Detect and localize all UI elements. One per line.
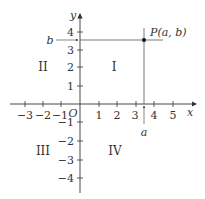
- y-axis-label: y: [69, 9, 77, 22]
- x-tick-label: 5: [170, 109, 177, 122]
- point-p-marker: [142, 38, 146, 42]
- y-tick-label: 2: [67, 61, 74, 74]
- x-tick-label: 4: [151, 109, 158, 122]
- point-guide-lines: [80, 28, 163, 104]
- point-p-label: P(a, b): [149, 26, 187, 39]
- quadrant-label-II: II: [38, 60, 48, 74]
- origin-label: O: [68, 107, 77, 120]
- quadrant-label-IV: IV: [108, 144, 122, 158]
- y-tick-label: 4: [67, 26, 74, 39]
- coordinate-plane-diagram: −3 −2 −1 1 2 3 4 5 x 4 3: [0, 0, 205, 199]
- a-label: a: [141, 126, 148, 139]
- y-tick-label: 3: [67, 44, 74, 57]
- y-tick-label: 1: [67, 80, 74, 93]
- y-axis: 4 3 2 1 −1 −2 −3 −4 y: [58, 9, 83, 193]
- y-tick-label: −4: [58, 172, 74, 185]
- y-tick-label: −2: [58, 135, 74, 148]
- x-tick-label: −3: [17, 109, 33, 122]
- x-tick-label: 3: [132, 109, 139, 122]
- x-tick-label: −2: [35, 109, 51, 122]
- a-pointer: a: [141, 106, 148, 139]
- x-axis: −3 −2 −1 1 2 3 4 5 x: [10, 101, 196, 122]
- x-tick-label: 2: [114, 109, 121, 122]
- b-label: b: [46, 34, 53, 47]
- quadrant-label-I: I: [112, 60, 117, 74]
- x-axis-label: x: [187, 106, 194, 119]
- x-tick-label: 1: [96, 109, 103, 122]
- y-tick-label: −3: [58, 154, 74, 167]
- quadrant-label-III: III: [36, 144, 50, 158]
